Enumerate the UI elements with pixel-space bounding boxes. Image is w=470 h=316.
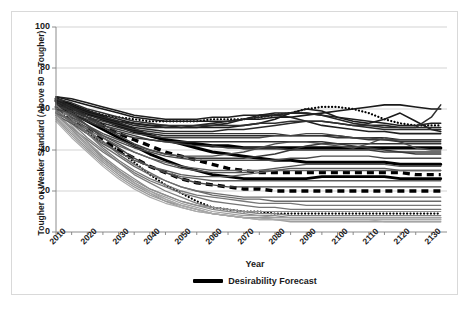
chart-legend: Desirability Forecast — [60, 276, 450, 286]
legend-label-desirability-forecast: Desirability Forecast — [228, 276, 317, 286]
gridlines — [56, 27, 447, 191]
legend-swatch-desirability-forecast — [193, 279, 223, 283]
series-lines — [56, 97, 441, 222]
chart-container: 100806040200 201020202030204020502060207… — [0, 0, 470, 316]
x-axis-title: Year — [60, 259, 450, 269]
y-axis-title: Tougher or Weaker Standard (Above 50 = T… — [36, 28, 46, 238]
